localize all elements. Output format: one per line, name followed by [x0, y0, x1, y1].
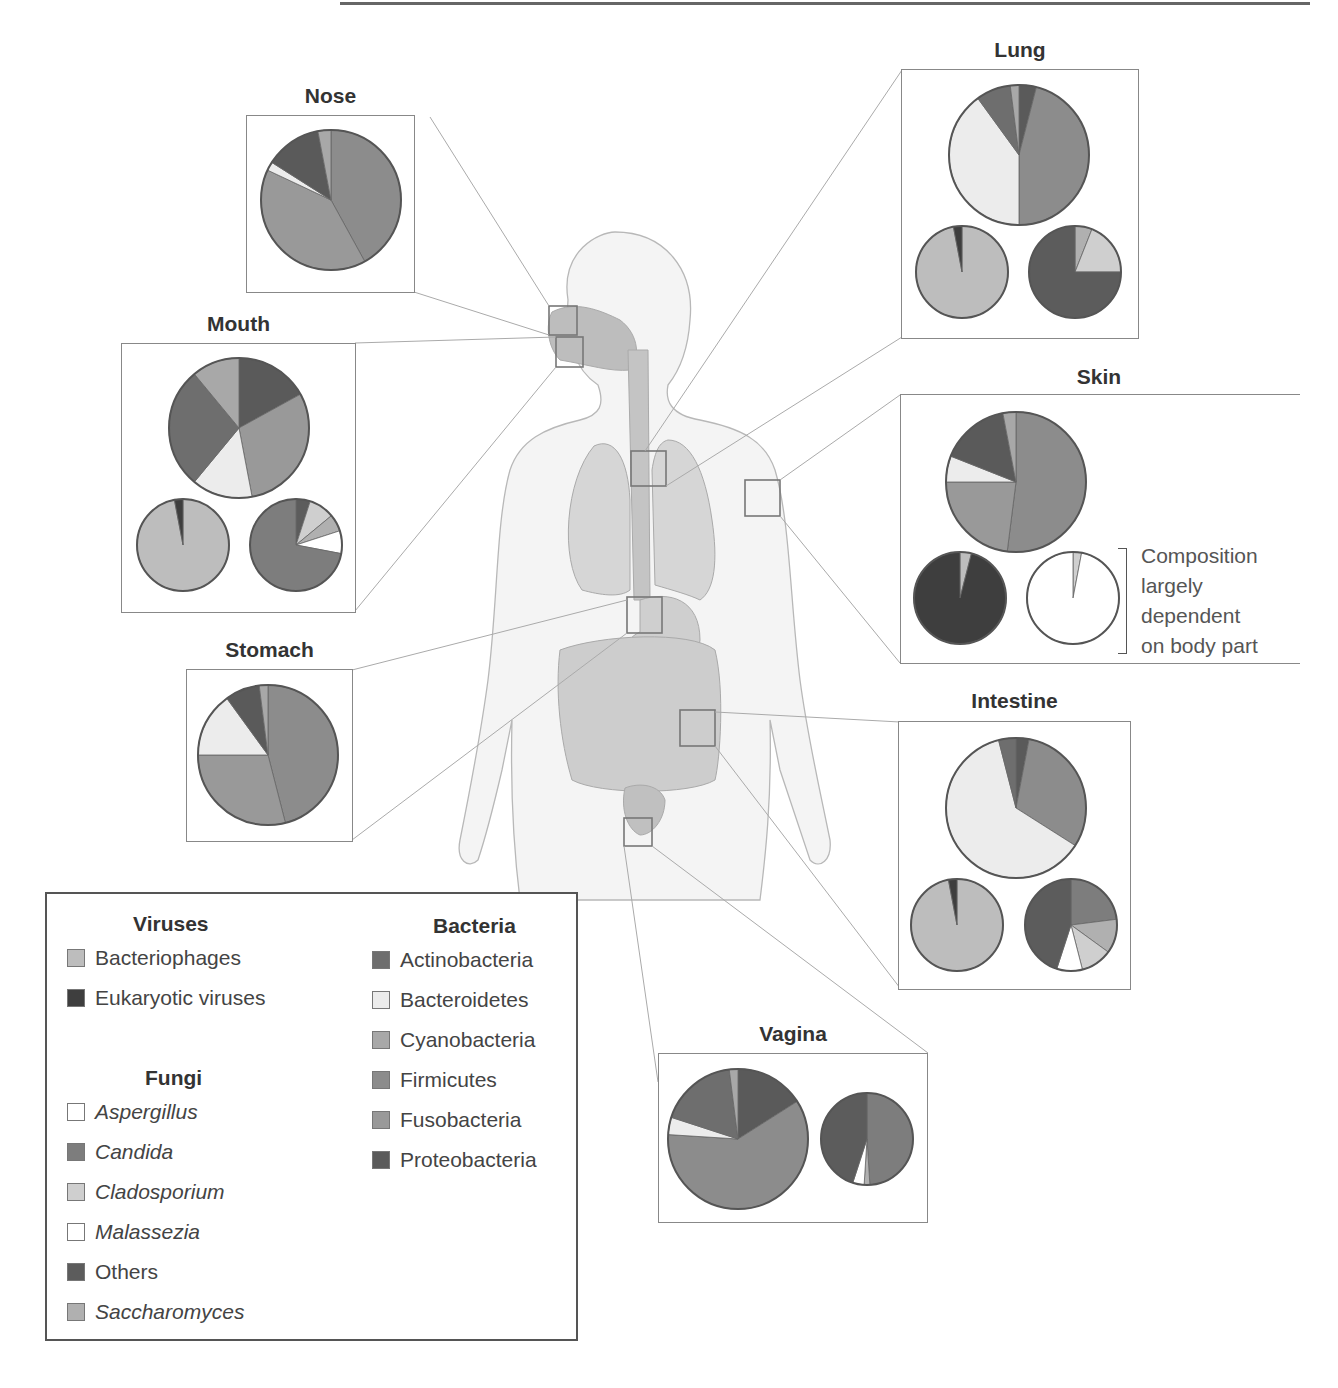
legend-item-eukaryotic-viruses: Eukaryotic viruses: [67, 986, 265, 1010]
swatch-icon: [67, 989, 85, 1007]
legend-item-aspergillus: Aspergillus: [67, 1100, 198, 1124]
swatch-icon: [372, 1111, 390, 1129]
legend-item-others: Others: [67, 1260, 158, 1284]
legend-item-fusobacteria: Fusobacteria: [372, 1108, 521, 1132]
swatch-icon: [67, 1103, 85, 1121]
swatch-icon: [67, 1263, 85, 1281]
skin-note: Composition largely dependent on body pa…: [1141, 541, 1258, 661]
legend-item-proteobacteria: Proteobacteria: [372, 1148, 537, 1172]
swatch-icon: [67, 1223, 85, 1241]
swatch-icon: [67, 1303, 85, 1321]
legend-item-saccharomyces: Saccharomyces: [67, 1300, 244, 1324]
swatch-icon: [67, 1183, 85, 1201]
legend-item-bacteriophages: Bacteriophages: [67, 946, 241, 970]
legend-item-actinobacteria: Actinobacteria: [372, 948, 533, 972]
legend-viruses-heading: Viruses: [133, 912, 209, 936]
legend-item-candida: Candida: [67, 1140, 173, 1164]
swatch-icon: [372, 1151, 390, 1169]
skin-note-bracket: [1118, 548, 1127, 654]
legend-item-firmicutes: Firmicutes: [372, 1068, 497, 1092]
legend-item-cladosporium: Cladosporium: [67, 1180, 225, 1204]
legend-item-cyanobacteria: Cyanobacteria: [372, 1028, 535, 1052]
legend-item-bacteroidetes: Bacteroidetes: [372, 988, 528, 1012]
swatch-icon: [372, 1031, 390, 1049]
legend-item-malassezia: Malassezia: [67, 1220, 200, 1244]
swatch-icon: [67, 949, 85, 967]
legend-fungi-heading: Fungi: [145, 1066, 202, 1090]
legend: Viruses Bacteriophages Eukaryotic viruse…: [45, 892, 578, 1341]
swatch-icon: [372, 991, 390, 1009]
pie-slice: [867, 1093, 913, 1185]
swatch-icon: [372, 1071, 390, 1089]
swatch-icon: [67, 1143, 85, 1161]
swatch-icon: [372, 951, 390, 969]
legend-bacteria-heading: Bacteria: [433, 914, 516, 938]
